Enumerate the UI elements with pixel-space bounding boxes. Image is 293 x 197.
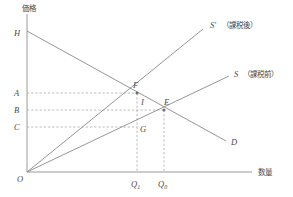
chart-figure: 価格 数量 O A B C H Q1 Q0 F E G I S′ （課税後） S… [0, 0, 293, 197]
supply-post-tax-symbol: S′ [210, 20, 216, 30]
x-axis-label: 数量 [258, 167, 273, 177]
supply-pre-tax-symbol: S [234, 69, 239, 79]
demand-curve-symbol: D [230, 137, 238, 147]
point-h-label: H [13, 28, 21, 38]
y-axis-label: 価格 [22, 3, 37, 13]
x-tick-q1-sub: 1 [137, 184, 140, 190]
supply-demand-tax-chart: 価格 数量 O A B C H Q1 Q0 F E G I S′ （課税後） S… [0, 0, 293, 197]
x-tick-label-q0: Q0 [158, 179, 167, 190]
x-tick-q0-sub: 0 [164, 184, 167, 190]
point-f-label: F [132, 80, 139, 90]
supply-pre-tax-note: （課税前） [243, 69, 278, 79]
x-tick-label-q1: Q1 [131, 179, 140, 190]
origin-label: O [17, 174, 23, 184]
point-e-marker [163, 109, 166, 112]
point-e-label: E [163, 97, 170, 107]
y-tick-label-b: B [14, 105, 19, 115]
point-f-marker [136, 92, 139, 95]
point-g-label: G [140, 124, 146, 134]
y-tick-label-c: C [14, 122, 20, 132]
point-i-label: I [140, 97, 145, 107]
supply-post-tax-note: （課税後） [222, 20, 257, 30]
y-tick-label-a: A [13, 88, 20, 98]
